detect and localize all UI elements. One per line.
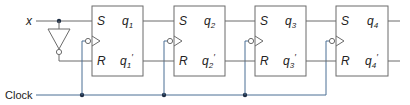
s-input-label: S: [179, 14, 187, 28]
s-input-label: S: [341, 14, 349, 28]
clock-branch-2: [164, 41, 167, 95]
clock-bubble: [329, 38, 334, 43]
clock-branch-1: [82, 41, 85, 95]
flip-flop-4: S R q4 q4′: [329, 6, 388, 76]
r-input-label: R: [341, 54, 350, 68]
r-input-label: R: [97, 54, 106, 68]
clock-bubble: [167, 38, 172, 43]
clock-branch-4: [326, 41, 329, 95]
flip-flop-1: S R q1 q1′: [85, 6, 143, 76]
clock-bubble: [248, 38, 253, 43]
s-input-label: S: [260, 14, 268, 28]
clock-label: Clock: [5, 89, 33, 101]
r-input-label: R: [179, 54, 188, 68]
inverter-output-wire: [59, 55, 92, 61]
sr-shift-register-diagram: x Clock S R q1 q1′ S R q2 q2′: [0, 0, 410, 105]
clock-branch-3: [245, 41, 248, 95]
flip-flop-2: S R q2 q2′: [167, 6, 225, 76]
s-input-label: S: [97, 14, 105, 28]
input-x-label: x: [25, 14, 33, 28]
inverter-icon: [48, 29, 70, 49]
r-input-label: R: [260, 54, 269, 68]
inverter-bubble: [56, 49, 61, 54]
clock-bubble: [85, 38, 90, 43]
flip-flop-3: S R q3 q3′: [248, 6, 306, 76]
